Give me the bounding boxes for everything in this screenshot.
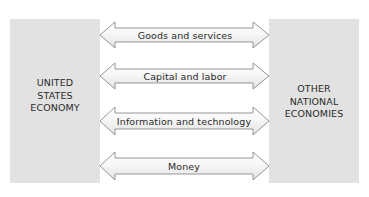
flow-label-information-and-technology: Information and technology — [117, 116, 251, 127]
flow-label-money: Money — [168, 161, 200, 172]
trade-flow-diagram: UNITED STATES ECONOMY OTHER NATIONAL ECO… — [0, 0, 369, 197]
flow-label-capital-and-labor: Capital and labor — [143, 71, 226, 82]
flow-label-goods-and-services: Goods and services — [138, 30, 233, 41]
